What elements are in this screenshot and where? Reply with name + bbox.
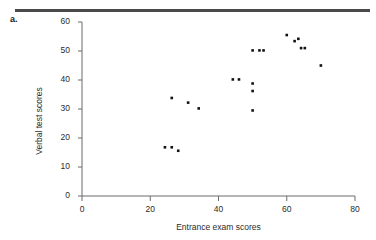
x-tick-label: 80 (343, 204, 367, 214)
data-point (293, 40, 296, 43)
data-point (170, 97, 173, 100)
data-point (251, 49, 254, 52)
y-tick-label: 30 (48, 103, 70, 113)
y-tick-label: 10 (48, 161, 70, 171)
x-tick-label: 60 (275, 204, 299, 214)
data-point (238, 78, 241, 81)
data-point (297, 38, 300, 41)
data-point (170, 146, 173, 149)
data-point (262, 49, 265, 52)
x-tick-label: 20 (138, 204, 162, 214)
data-point (304, 47, 307, 50)
data-point (177, 149, 180, 152)
x-tick-label: 40 (207, 204, 231, 214)
data-point (232, 78, 235, 81)
axes-group (82, 22, 355, 196)
y-axis-ticks (78, 22, 82, 196)
data-point (164, 146, 167, 149)
y-tick-label: 60 (48, 16, 70, 26)
data-point (300, 47, 303, 50)
y-tick-label: 50 (48, 45, 70, 55)
scatter-plot-canvas (0, 0, 376, 240)
data-point (285, 34, 288, 37)
data-point (258, 49, 261, 52)
y-tick-label: 0 (48, 190, 70, 200)
y-tick-label: 40 (48, 74, 70, 84)
data-point (251, 90, 254, 93)
x-axis-ticks (82, 196, 355, 201)
x-tick-label: 0 (70, 204, 94, 214)
figure-panel: a. Verbal test scores Entrance exam scor… (0, 0, 376, 240)
data-points-group (164, 34, 323, 152)
data-point (320, 64, 323, 67)
data-point (251, 109, 254, 112)
data-point (197, 107, 200, 110)
y-tick-label: 20 (48, 132, 70, 142)
data-point (251, 82, 254, 85)
data-point (187, 101, 190, 104)
